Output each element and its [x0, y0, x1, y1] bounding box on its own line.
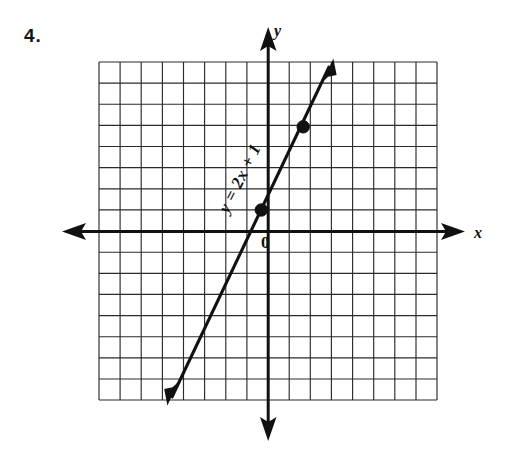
plotted-point-second	[297, 121, 309, 133]
coordinate-graph-figure: x y 0 y = 2x + 1	[0, 0, 516, 462]
x-axis: x	[62, 223, 482, 241]
origin-label: 0	[261, 233, 270, 252]
y-axis-label: y	[272, 22, 282, 40]
x-axis-label: x	[473, 224, 482, 241]
worksheet-page: 4.	[0, 0, 516, 462]
plotted-point-y-intercept	[255, 204, 267, 216]
function-line-arrow-lower-left-icon	[164, 382, 179, 406]
